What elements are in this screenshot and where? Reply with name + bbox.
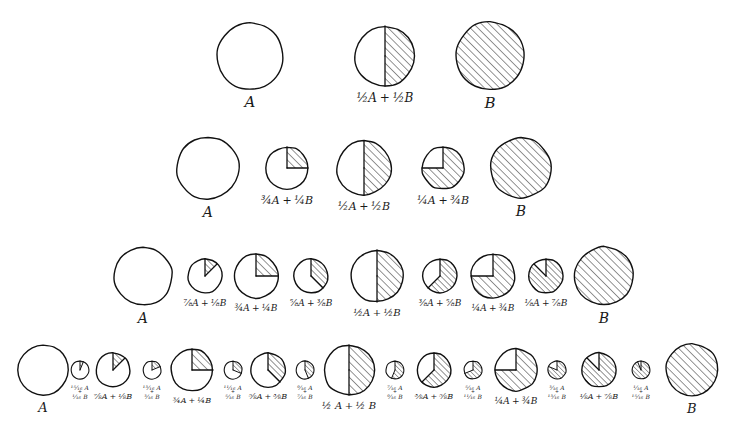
mixture-label: ¼A + ¾B [490,397,542,406]
mixture-cell: ¾A + ¼B [261,143,313,206]
mixture-label: ⅝A + ⅜B [289,299,333,308]
mixture-pie-icon [92,349,134,391]
mixture-pie-icon [418,143,468,193]
mixture-cell: ¾A + ¼B [166,345,218,405]
mixture-pie-icon [413,349,455,391]
mixture-pie-icon [460,357,486,383]
mixture-label: ⁷⁄₁₆ A+⁹⁄₁₆ B [378,385,412,400]
mixture-label: ¼A + ¾B [466,304,520,313]
mixture-cell: ½A + ½B [346,246,408,318]
mixture-cell: ⁵⁄₁₆ A+¹¹⁄₁₆ B [456,357,490,400]
mixture-label: B [570,311,638,325]
mixture-label: A [172,205,244,219]
mixture-pie-icon [67,357,93,383]
mixture-cell: ⅜A + ⅝B [418,255,462,308]
mixture-cell: ⅛A + ⅞B [577,349,621,401]
mixture-label: ⅞A + ⅛B [91,393,135,401]
mixture-pie-icon [230,250,282,302]
mixture-pie-icon [662,340,722,400]
mixture-label: ⅝A + ⅜B [246,393,290,401]
mixture-cell: ⁷⁄₁₆ A+⁹⁄₁₆ B [378,357,412,400]
mixture-label: ¾A + ¼B [166,397,218,405]
mixture-cell: ⅛A + ⅞B [524,255,568,308]
mixture-cell: ¾A + ¼B [229,250,283,313]
mixture-label-line-b: ⁹⁄₁₆ B [378,394,412,400]
mixture-label: B [486,204,556,218]
mixture-pie-icon [247,349,289,391]
mixture-pie-icon [173,133,243,203]
mixture-cell: ½A + ½B [332,137,396,212]
mixture-pyramid-diagram: A½A + ½BBA¾A + ¼B½A + ½B¼A + ¾BBA⅞A + ⅛B… [0,0,751,445]
mixture-pie-icon [351,22,419,90]
mixture-pie-icon [571,243,637,309]
mixture-cell: A [212,19,288,110]
mixture-label: ½A + ½B [350,92,420,104]
mixture-label: ⅞A + ⅛B [183,299,227,308]
mixture-pie-icon [525,255,567,297]
mixture-cell: ⅞A + ⅛B [91,349,135,401]
mixture-cell: A [172,133,244,219]
mixture-label: ¼A + ¾B [417,195,469,206]
mixture-cell: ¹⁄₁₆ A+¹⁵⁄₁₆ B [624,357,658,400]
mixture-label: B [661,402,723,415]
mixture-cell: ¼A + ¾B [466,250,520,313]
mixture-pie-icon [139,357,165,383]
mixture-cell: ⅝A + ⅜B [246,349,290,401]
mixture-pie-icon [290,255,332,297]
mixture-pie-icon [292,357,318,383]
mixture-pie-icon [419,255,461,297]
mixture-cell: ¹³⁄₁₆ A+³⁄₁₆ B [135,357,169,400]
mixture-pie-icon [167,345,217,395]
mixture-label: ½A + ½B [332,201,396,212]
mixture-label: ⁹⁄₁₆ A+⁷⁄₁₆ B [288,385,322,400]
mixture-pie-icon [184,255,226,297]
mixture-label: A [13,401,73,414]
mixture-label: ¹⁄₁₆ A+¹⁵⁄₁₆ B [624,385,658,400]
mixture-cell: ½A + ½B [350,22,420,104]
mixture-label: ⅜A + ⅝B [412,393,456,401]
mixture-label: ½A + ½B [346,308,408,318]
mixture-label: ¹³⁄₁₆ A+³⁄₁₆ B [135,385,169,400]
mixture-label: ⅛A + ⅞B [524,299,568,308]
mixture-pie-icon [544,357,570,383]
mixture-cell: ⁹⁄₁₆ A+⁷⁄₁₆ B [288,357,322,400]
mixture-pie-icon [452,18,528,94]
mixture-cell: B [486,134,556,218]
mixture-label: ¾A + ¼B [229,304,283,313]
mixture-cell: ⅝A + ⅜B [289,255,333,308]
mixture-label-line-b: ¹¹⁄₁₆ B [456,394,490,400]
mixture-label: ⁵⁄₁₆ A+¹¹⁄₁₆ B [456,385,490,400]
mixture-cell: ½ A + ½ B [319,341,379,411]
mixture-pie-icon [213,19,287,93]
mixture-cell: ¼A + ¾B [417,143,469,206]
mixture-pie-icon [320,341,378,399]
mixture-label: ⅜A + ⅝B [418,299,462,308]
mixture-label: A [212,95,288,110]
mixture-label-line-b: ⁵⁄₁₆ B [216,394,250,400]
mixture-cell: B [570,243,638,325]
mixture-cell: ¹¹⁄₁₆ A+⁵⁄₁₆ B [216,357,250,400]
mixture-pie-icon [347,246,407,306]
mixture-label-line-b: ¹⁵⁄₁₆ B [624,394,658,400]
mixture-label-line-b: ⁷⁄₁₆ B [288,394,322,400]
mixture-pie-icon [333,137,395,199]
mixture-label: ³⁄₁₆ A+¹³⁄₁₆ B [540,385,574,400]
mixture-cell: A [109,243,177,325]
mixture-label: ¾A + ¼B [261,195,313,206]
mixture-label-line-b: ³⁄₁₆ B [135,394,169,400]
mixture-cell: B [451,18,529,111]
mixture-pie-icon [487,134,555,202]
mixture-cell: ⅞A + ⅛B [183,255,227,308]
mixture-pie-icon [262,143,312,193]
mixture-label: ½ A + ½ B [319,401,379,411]
mixture-pie-icon [491,345,541,395]
mixture-pie-icon [467,250,519,302]
mixture-cell: ⅜A + ⅝B [412,349,456,401]
mixture-pie-icon [220,357,246,383]
mixture-label: A [109,311,177,325]
mixture-pie-icon [382,357,408,383]
mixture-pie-icon [110,243,176,309]
mixture-cell: ³⁄₁₆ A+¹³⁄₁₆ B [540,357,574,400]
mixture-label-line-b: ¹³⁄₁₆ B [540,394,574,400]
mixture-cell: B [661,340,723,415]
